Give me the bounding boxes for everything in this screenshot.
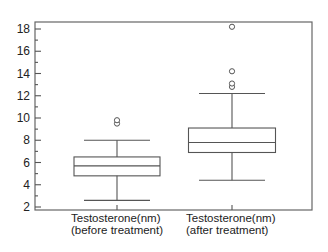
box-iqr: [189, 128, 276, 152]
outlier-point: [114, 118, 119, 123]
y-tick-label: 8: [23, 133, 30, 147]
x-category-label-line2: (after treatment): [186, 224, 269, 236]
x-category-label-line1: Testosterone(nm): [186, 212, 276, 224]
plot-area: 24681012141618Testosterone(nm)(before tr…: [17, 22, 312, 236]
y-tick-label: 4: [23, 178, 30, 192]
y-tick-label: 18: [17, 22, 31, 36]
box-iqr: [74, 157, 160, 176]
y-tick-label: 14: [17, 67, 31, 81]
y-tick-label: 12: [17, 89, 31, 103]
outlier-point: [229, 69, 234, 74]
outlier-point: [229, 24, 234, 29]
plot-frame: [35, 22, 312, 210]
outlier-point: [229, 81, 234, 86]
x-category-label-line2: (before treatment): [71, 224, 163, 236]
x-category-label-line1: Testosterone(nm): [71, 212, 161, 224]
y-tick-label: 16: [17, 44, 31, 58]
y-tick-label: 2: [23, 200, 30, 214]
y-tick-label: 10: [17, 111, 31, 125]
y-tick-label: 6: [23, 156, 30, 170]
boxplot-chart: 24681012141618Testosterone(nm)(before tr…: [0, 0, 328, 252]
